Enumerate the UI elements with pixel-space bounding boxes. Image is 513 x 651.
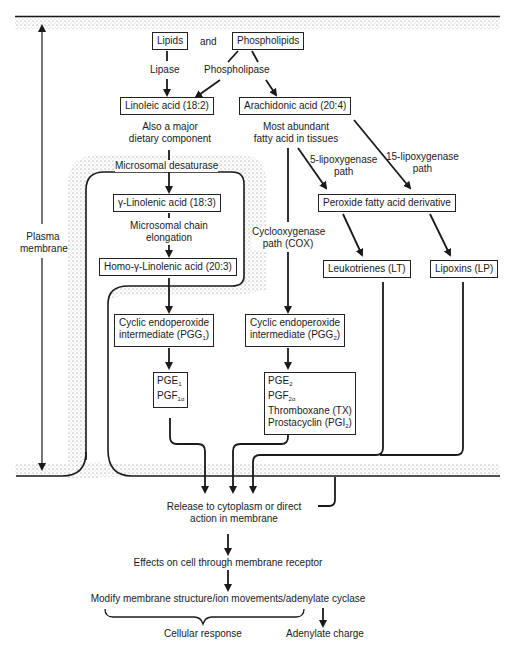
product-pge1: PGE1 [157,375,184,390]
chain-elongation-line2: elongation [128,232,210,244]
label-microsomal-desaturase: Microsomal desaturase [115,160,218,172]
node-leukotrienes: Leukotrienes (LT) [323,260,411,278]
lipox5-line1: 5-lipoxygenase [310,154,377,166]
plasma-membrane-label-line1: Plasma [20,231,66,243]
label-release: Release to cytoplasm or direct action in… [158,501,310,525]
linoleic-note: Also a major dietary component [124,121,216,145]
release-line2: action in membrane [158,513,310,525]
node-gamma-linolenic-acid: γ-Linolenic acid (18:3) [113,194,221,212]
label-and: and [200,36,217,48]
chain-elongation-line1: Microsomal chain [128,220,210,232]
pgg2-line2: intermediate (PGG2) [250,329,340,344]
pgg2-line1: Cyclic endoperoxide [250,317,340,329]
linoleic-note-line2: dietary component [124,133,216,145]
product-pge2: PGE2 [268,375,352,390]
label-effects: Effects on cell through membrane recepto… [131,557,325,569]
pgg1-line1: Cyclic endoperoxide [119,317,209,329]
node-pgg1: Cyclic endoperoxide intermediate (PGG1) [114,314,214,347]
node-linoleic-acid: Linoleic acid (18:2) [120,97,214,115]
release-line1: Release to cytoplasm or direct [158,501,310,513]
lipox5-line2: path [310,166,377,178]
arachidonic-note: Most abundant fatty acid in tissues [250,121,342,145]
label-cellular-response: Cellular response [160,628,246,640]
node-lipoxins: Lipoxins (LP) [430,260,498,278]
node-lipids: Lipids [152,32,188,50]
label-modify: Modify membrane structure/ion movements/… [82,593,374,605]
product-prostacyclin: Prostacyclin (PGI2) [268,417,352,432]
linoleic-note-line1: Also a major [124,121,216,133]
pgg1-line2: intermediate (PGG1) [119,329,209,344]
node-peroxide-fatty-acid-derivative: Peroxide fatty acid derivative [318,194,456,212]
arachidonic-note-line1: Most abundant [250,121,342,133]
label-5-lipoxygenase-path: 5-lipoxygenase path [310,154,377,178]
lipox15-line1: 15-lipoxygenase [386,151,459,163]
node-phospholipids: Phospholipids [232,32,304,50]
label-adenylate-charge: Adenylate charge [285,628,365,640]
arachidonic-note-line2: fatty acid in tissues [250,133,342,145]
cox-line2: path (COX) [252,238,324,250]
label-phospholipase: Phospholipase [204,64,270,76]
node-pgg2: Cyclic endoperoxide intermediate (PGG2) [245,314,345,347]
cox-line1: Cyclooxygenase [252,226,324,238]
product-pgf1a: PGF1α [157,390,184,405]
node-arachidonic-acid: Arachidonic acid (20:4) [239,97,351,115]
lipox15-line2: path [386,163,459,175]
plasma-membrane-label: Plasma membrane [20,231,66,255]
node-series1-products: PGE1 PGF1α [153,372,188,408]
node-series2-products: PGE2 PGF2α Thromboxane (TX) Prostacyclin… [264,372,356,435]
node-homo-gamma-linolenic-acid: Homo-γ-Linolenic acid (20:3) [99,258,237,276]
product-pgf2a: PGF2α [268,390,352,405]
plasma-membrane-label-line2: membrane [20,243,66,255]
label-lipase: Lipase [150,64,179,76]
label-chain-elongation: Microsomal chain elongation [128,220,210,244]
label-cyclooxygenase-path: Cyclooxygenase path (COX) [252,226,324,250]
top-membrane [15,17,500,30]
label-15-lipoxygenase-path: 15-lipoxygenase path [386,151,459,175]
product-thromboxane: Thromboxane (TX) [268,405,352,417]
